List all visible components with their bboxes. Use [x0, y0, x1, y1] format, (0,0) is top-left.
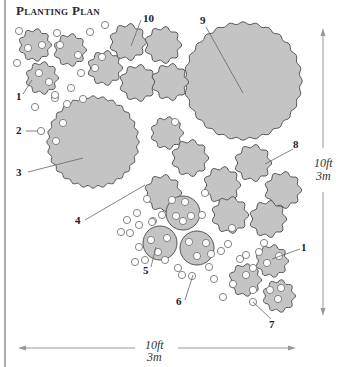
bulb-2 [79, 95, 86, 102]
label-3: 3 [16, 166, 22, 178]
bulb-2 [179, 217, 186, 224]
label-10: 10 [143, 12, 155, 24]
bulb-2 [210, 275, 217, 282]
bulb-in-shrub [242, 271, 249, 278]
label-8: 8 [293, 138, 299, 150]
label-7: 7 [269, 318, 275, 330]
bulb-2 [126, 229, 133, 236]
shrub-10 [145, 27, 181, 64]
bulb-in-shrub [255, 248, 262, 255]
label-6: 6 [176, 295, 182, 307]
bulb-2 [201, 189, 208, 196]
bulb-in-shrub [185, 238, 192, 245]
bulb-in-shrub [263, 259, 270, 266]
arrow-left-icon [18, 346, 26, 351]
bulb-2 [13, 59, 20, 66]
bulb-2 [178, 271, 185, 278]
bulb-in-shrub [172, 212, 179, 219]
bulb-2 [148, 218, 155, 225]
label-9: 9 [200, 14, 206, 26]
bulb-2 [207, 250, 214, 257]
bulb-2 [101, 21, 108, 28]
tree-9 [184, 22, 302, 140]
arrow-right-icon [288, 346, 296, 351]
bulb-in-shrub [91, 64, 98, 71]
vertical-scale: 10ft 3m [314, 28, 333, 316]
arrow-down-icon [321, 308, 326, 316]
label-4: 4 [75, 214, 81, 226]
shrub-1 [20, 29, 52, 61]
arrow-up-icon [321, 28, 326, 36]
shrub-1 [55, 34, 87, 66]
bulb-2 [51, 91, 58, 98]
bulb-in-shrub [277, 284, 284, 291]
bulb-2 [86, 28, 93, 35]
bulb-2 [260, 239, 267, 246]
bulb-2 [67, 84, 74, 91]
bulb-2 [143, 195, 150, 202]
bulb-2 [198, 211, 205, 218]
plan-canvas: 10 9 1 2 3 4 5 6 7 8 1 10ft 3m 10ft 3m [0, 0, 342, 367]
bulb-2 [117, 228, 124, 235]
bulb-2 [219, 293, 226, 300]
bulb-in-shrub [266, 286, 273, 293]
bulb-2 [37, 127, 44, 134]
shrub-1 [27, 62, 59, 94]
bulb-2 [77, 69, 84, 76]
bulb-2 [217, 247, 224, 254]
bulb-2 [174, 264, 181, 271]
shrub-10 [152, 64, 188, 101]
bulb-in-shrub [24, 44, 31, 51]
bulb-in-shrub [202, 239, 209, 246]
bulb-2 [133, 209, 140, 216]
planting-plan-diagram: Planting Plan [0, 0, 342, 367]
bulb-2 [242, 251, 249, 258]
horizontal-scale-m: 3m [146, 350, 162, 364]
vertical-scale-m: 3m [315, 169, 331, 183]
bulb-2 [205, 263, 212, 270]
bulb-in-shrub [38, 41, 45, 48]
label-1-top: 1 [16, 90, 22, 102]
bulb-in-shrub [249, 286, 256, 293]
bulb-in-shrub [56, 41, 63, 48]
vertical-scale-ft: 10ft [314, 156, 333, 170]
bulb-in-shrub [229, 280, 236, 287]
bulb-in-shrub [181, 198, 188, 205]
bulb-2 [224, 240, 231, 247]
label-1-right: 1 [301, 241, 307, 253]
bulb-2 [135, 243, 142, 250]
bulb-2 [249, 264, 256, 271]
bulb-in-shrub [161, 256, 168, 263]
bulb-2 [135, 221, 142, 228]
bulb-in-shrub [163, 234, 170, 241]
bulb-in-shrub [168, 196, 175, 203]
label-5: 5 [143, 264, 149, 276]
shrub [172, 140, 208, 177]
horizontal-scale: 10ft 3m [18, 338, 296, 364]
bulb-in-shrub [74, 51, 81, 58]
shrub-10 [120, 65, 156, 102]
tree-3 [47, 96, 139, 188]
bulb-2 [63, 100, 70, 107]
plant-shapes [13, 21, 302, 312]
shrub-10 [110, 24, 146, 61]
bulb-in-shrub [228, 224, 235, 231]
bulb-2 [141, 256, 148, 263]
bulb-in-shrub [52, 137, 59, 144]
bulb-2 [123, 216, 130, 223]
bulb-2 [171, 118, 178, 125]
label-2: 2 [16, 124, 22, 136]
bulb-2 [15, 27, 22, 34]
bulb-in-shrub [35, 69, 42, 76]
bulb-2 [31, 103, 38, 110]
bulb-in-shrub [147, 236, 154, 243]
bulb-in-shrub [193, 252, 200, 259]
bulb-2 [158, 211, 165, 218]
shrub-8 [250, 201, 286, 238]
bulb-in-shrub [187, 212, 194, 219]
bulb-in-shrub [59, 119, 66, 126]
bulb-in-shrub [274, 295, 281, 302]
bulb-in-shrub [98, 53, 105, 60]
bulb-2 [131, 258, 138, 265]
bulb-in-shrub [45, 78, 52, 85]
